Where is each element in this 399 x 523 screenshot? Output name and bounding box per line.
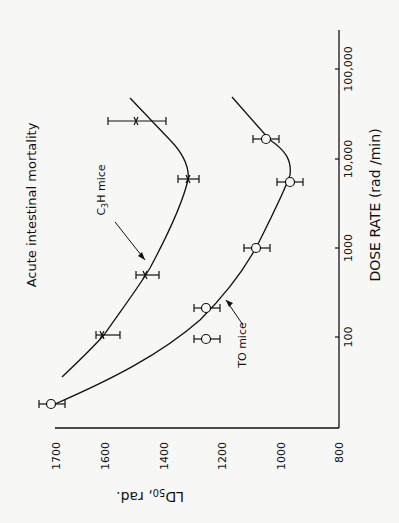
chart-title: Acute intestinal mortality — [24, 122, 39, 287]
x-tick-1000: 1000 — [342, 234, 355, 262]
y-tick-1000: 1000 — [275, 442, 288, 470]
c3h-points — [96, 117, 199, 339]
x-axis-label: DOSE RATE (rad /min) — [367, 128, 383, 281]
y-tick-1200: 1200 — [216, 442, 229, 470]
to-point-100 — [194, 335, 220, 344]
c3h-curve — [62, 98, 188, 377]
c3h-label: C3H mice — [95, 164, 110, 215]
y-tick-1400: 1400 — [158, 442, 171, 470]
to-points — [39, 135, 303, 409]
to-point-1000 — [244, 244, 270, 253]
x-tick-100000: 100,000 — [342, 46, 355, 92]
c3h-point-100 — [96, 331, 120, 339]
to-point-17000 — [253, 135, 279, 144]
to-point-5500 — [277, 178, 303, 187]
y-tick-1700: 1700 — [50, 442, 63, 470]
c3h-point-27000 — [108, 117, 166, 125]
to-arrowhead-icon — [226, 300, 233, 307]
dose-rate-chart: 100 1000 10,000 100,000 DOSE RATE (rad /… — [0, 0, 399, 523]
y-tick-1600: 1600 — [99, 442, 112, 470]
x-tick-10000: 10,000 — [342, 140, 355, 179]
y-tick-800: 800 — [333, 442, 346, 463]
y-axis-label: LD50, rad. — [116, 487, 184, 505]
to-label: TO mice — [236, 322, 249, 369]
x-tick-100: 100 — [342, 327, 355, 348]
to-point-210 — [194, 304, 220, 313]
